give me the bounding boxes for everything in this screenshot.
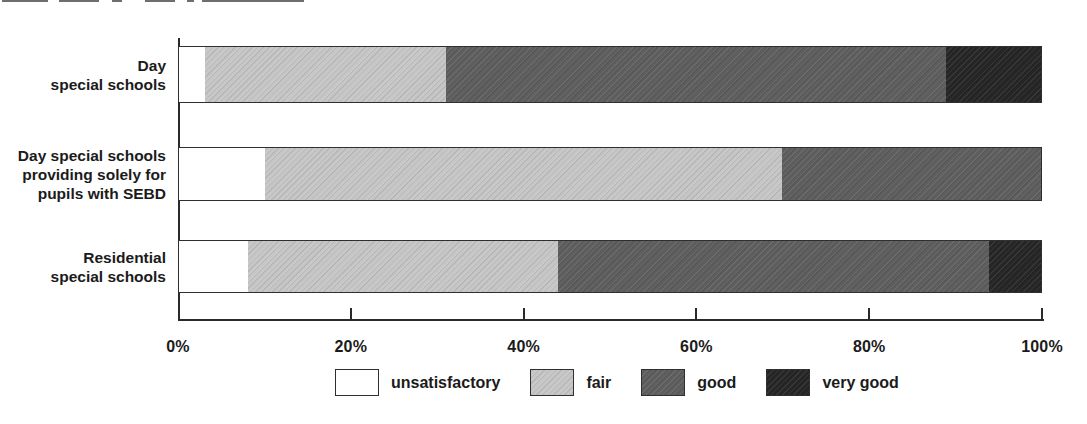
legend-item-fair: fair	[530, 369, 611, 396]
tick-label-60: 60%	[680, 338, 713, 356]
bar-segment-very-good	[989, 241, 1041, 292]
category-label: Residential special schools	[0, 248, 166, 286]
tick-mark-60	[695, 308, 697, 319]
bar-row: Residential special schools	[0, 240, 1087, 293]
tick-mark-80	[868, 308, 870, 319]
legend-label: unsatisfactory	[391, 374, 500, 392]
x-axis-line	[178, 319, 1044, 321]
bar-row: Day special schools	[0, 46, 1087, 103]
legend-item-unsatisfactory: unsatisfactory	[335, 369, 500, 396]
legend-label: good	[697, 374, 736, 392]
legend-label: fair	[586, 374, 611, 392]
legend-swatch	[530, 369, 574, 396]
legend-swatch	[766, 369, 810, 396]
bar-segment-good	[446, 47, 946, 102]
stacked-bar	[178, 46, 1042, 103]
legend: unsatisfactoryfairgoodvery good	[335, 369, 899, 396]
stacked-bar	[178, 147, 1042, 201]
tick-label-0: 0%	[166, 338, 190, 356]
bar-segment-very-good	[946, 47, 1041, 102]
bar-segment-good	[782, 148, 1041, 200]
bar-segment-unsatisfactory	[179, 148, 265, 200]
bar-segment-fair	[248, 241, 558, 292]
bar-segment-fair	[205, 47, 446, 102]
cropped-title-remnant	[2, 0, 332, 2]
tick-mark-20	[350, 308, 352, 319]
category-label: Day special schools providing solely for…	[0, 146, 166, 203]
bar-segment-good	[558, 241, 989, 292]
tick-mark-100	[1041, 308, 1043, 319]
tick-label-40: 40%	[507, 338, 540, 356]
tick-mark-40	[523, 308, 525, 319]
stacked-bar	[178, 240, 1042, 293]
bar-segment-unsatisfactory	[179, 47, 205, 102]
bar-segment-fair	[265, 148, 782, 200]
legend-item-very-good: very good	[766, 369, 898, 396]
stacked-bar-chart: Day special schoolsDay special schools p…	[0, 0, 1087, 424]
legend-swatch	[641, 369, 685, 396]
tick-label-80: 80%	[853, 338, 886, 356]
legend-item-good: good	[641, 369, 736, 396]
tick-label-20: 20%	[334, 338, 367, 356]
bar-segment-unsatisfactory	[179, 241, 248, 292]
tick-label-100: 100%	[1021, 338, 1063, 356]
bar-row: Day special schools providing solely for…	[0, 147, 1087, 201]
legend-label: very good	[822, 374, 898, 392]
category-label: Day special schools	[0, 56, 166, 94]
legend-swatch	[335, 369, 379, 396]
